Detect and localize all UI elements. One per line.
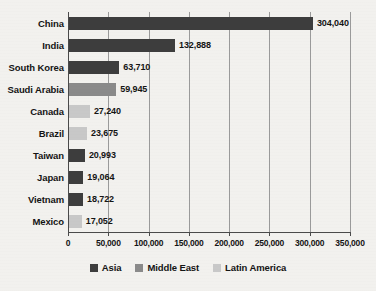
bar-row: 20,993 (68, 144, 350, 166)
legend-label: Middle East (147, 262, 199, 273)
category-label-canada: Canada (30, 100, 64, 122)
x-tick-50000 (108, 232, 109, 236)
bar-row: 23,675 (68, 122, 350, 144)
x-tick-label-250000: 250,000 (255, 238, 284, 248)
x-tick-150000 (189, 232, 190, 236)
legend-item-asia[interactable]: Asia (90, 262, 122, 273)
category-label-india: India (42, 34, 64, 56)
category-axis-labels: ChinaIndiaSouth KoreaSaudi ArabiaCanadaB… (0, 12, 64, 232)
bar-value-label: 19,064 (87, 172, 114, 182)
category-label-taiwan: Taiwan (33, 144, 64, 166)
bar-row: 63,710 (68, 56, 350, 78)
x-tick-label-150000: 150,000 (174, 238, 203, 248)
bar-value-label: 23,675 (91, 128, 118, 138)
bar-south-korea: 63,710 (68, 61, 119, 74)
bar-value-label: 17,052 (86, 216, 113, 226)
bar-value-label: 132,888 (179, 40, 211, 50)
x-tick-350000 (350, 232, 351, 236)
category-label-saudi-arabia: Saudi Arabia (7, 78, 64, 100)
x-axis-ticks (68, 232, 350, 236)
bar-row: 132,888 (68, 34, 350, 56)
x-tick-250000 (269, 232, 270, 236)
legend-swatch-icon (213, 264, 221, 272)
legend-swatch-icon (90, 264, 98, 272)
x-tick-0 (68, 232, 69, 236)
category-label-vietnam: Vietnam (28, 188, 64, 210)
x-tick-label-200000: 200,000 (214, 238, 243, 248)
chart-legend: AsiaMiddle EastLatin America (0, 262, 376, 273)
x-tick-label-300000: 300,000 (295, 238, 324, 248)
bar-brazil: 23,675 (68, 127, 87, 140)
x-tick-label-0: 0 (66, 238, 71, 248)
category-label-china: China (38, 12, 64, 34)
category-label-south-korea: South Korea (9, 56, 64, 78)
legend-label: Asia (102, 262, 122, 273)
x-axis-tick-labels: 050,000100,000150,000200,000250,000300,0… (68, 238, 350, 250)
x-tick-label-350000: 350,000 (335, 238, 364, 248)
x-tick-100000 (149, 232, 150, 236)
x-tick-300000 (310, 232, 311, 236)
bar-mexico: 17,052 (68, 215, 82, 228)
legend-item-latin-america[interactable]: Latin America (213, 262, 286, 273)
bar-value-label: 59,945 (120, 84, 147, 94)
bar-row: 19,064 (68, 166, 350, 188)
x-tick-200000 (229, 232, 230, 236)
bar-row: 59,945 (68, 78, 350, 100)
bar-value-label: 27,240 (94, 106, 121, 116)
bar-value-label: 18,722 (87, 194, 114, 204)
bar-china: 304,040 (68, 17, 313, 30)
category-label-brazil: Brazil (39, 122, 64, 144)
bar-taiwan: 20,993 (68, 149, 85, 162)
x-tick-label-100000: 100,000 (134, 238, 163, 248)
bar-chart: 304,040132,88863,71059,94527,24023,67520… (0, 0, 376, 291)
bar-india: 132,888 (68, 39, 175, 52)
x-tick-label-50000: 50,000 (96, 238, 121, 248)
bar-row: 17,052 (68, 210, 350, 232)
bar-saudi-arabia: 59,945 (68, 83, 116, 96)
gridline-350000 (350, 12, 351, 232)
bar-row: 18,722 (68, 188, 350, 210)
bar-value-label: 63,710 (123, 62, 150, 72)
y-axis-line (68, 12, 69, 232)
bar-vietnam: 18,722 (68, 193, 83, 206)
legend-label: Latin America (225, 262, 286, 273)
bar-rows: 304,040132,88863,71059,94527,24023,67520… (68, 12, 350, 232)
bar-canada: 27,240 (68, 105, 90, 118)
legend-item-middle-east[interactable]: Middle East (135, 262, 199, 273)
plot-area: 304,040132,88863,71059,94527,24023,67520… (68, 12, 350, 232)
category-label-mexico: Mexico (32, 210, 64, 232)
bar-row: 27,240 (68, 100, 350, 122)
category-label-japan: Japan (37, 166, 64, 188)
bar-japan: 19,064 (68, 171, 83, 184)
bar-value-label: 304,040 (317, 18, 349, 28)
bar-value-label: 20,993 (89, 150, 116, 160)
legend-swatch-icon (135, 264, 143, 272)
bar-row: 304,040 (68, 12, 350, 34)
